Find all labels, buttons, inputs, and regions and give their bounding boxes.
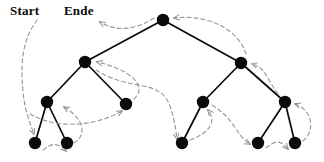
node-leaf-4[interactable]: [252, 137, 264, 149]
ende-label: Ende: [64, 3, 94, 19]
traversal-root-to-ende: [100, 18, 154, 28]
edge-nr-nrr: [241, 63, 285, 102]
tree-diagram-canvas: [0, 0, 324, 162]
node-leaf-2[interactable]: [61, 137, 73, 149]
traversal-start-to-first-leaf: [22, 20, 37, 134]
traversal-rll-to-rl: [190, 110, 212, 140]
node-right-left[interactable]: [197, 96, 209, 108]
tree-nodes: [29, 14, 301, 149]
traversal-l-to-rll: [96, 70, 177, 139]
edge-nll-nllr: [47, 102, 67, 143]
node-left[interactable]: [79, 56, 91, 68]
edge-nrl-nrll: [182, 102, 203, 143]
traversal-rrr-to-rr: [295, 104, 311, 141]
node-leaf-1[interactable]: [29, 137, 41, 149]
node-right-right[interactable]: [279, 96, 291, 108]
tree-traversal-figure: Start Ende: [0, 0, 324, 162]
node-leaf-5[interactable]: [289, 137, 301, 149]
traversal-path: [22, 17, 311, 151]
node-leaf-3[interactable]: [176, 137, 188, 149]
traversal-rrl-to-rrr: [266, 142, 288, 149]
traversal-rr-to-r: [252, 64, 278, 94]
traversal-rl-to-rrl: [212, 105, 250, 144]
traversal-r-to-root: [174, 17, 246, 54]
start-label: Start: [10, 3, 39, 19]
edge-root-right: [163, 20, 241, 63]
edge-nrr-nrrr: [285, 102, 295, 143]
edge-nl-nlr: [85, 62, 126, 104]
node-right[interactable]: [235, 57, 247, 69]
edge-nrr-nrrl: [258, 102, 285, 143]
node-left-left[interactable]: [41, 96, 53, 108]
edge-root-left: [85, 20, 163, 62]
node-left-right[interactable]: [120, 98, 132, 110]
edge-nl-nll: [47, 62, 85, 102]
edge-nr-nrl: [203, 63, 241, 102]
node-root[interactable]: [157, 14, 169, 26]
edge-nll-nlll: [35, 102, 47, 143]
